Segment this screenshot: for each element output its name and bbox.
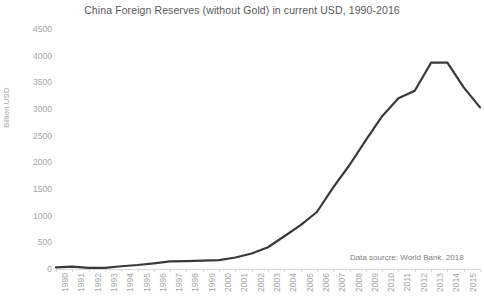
y-axis-tick-labels: 450040003500300025002000150010005000 [14, 29, 52, 269]
x-tick-mark [121, 269, 122, 272]
y-tick-label: 1500 [33, 184, 52, 194]
y-tick-label: 2000 [33, 157, 52, 167]
x-tick-mark [170, 269, 171, 272]
x-tick-label: 1998 [190, 273, 200, 292]
x-tick-mark [366, 269, 367, 272]
x-tick-mark [268, 269, 269, 272]
chart-title: China Foreign Reserves (without Gold) in… [0, 4, 484, 16]
x-tick-mark [464, 269, 465, 272]
x-tick-mark [398, 269, 399, 272]
x-tick-mark [89, 269, 90, 272]
y-axis-title: Billion USD [2, 88, 11, 128]
y-tick-label: 3500 [33, 77, 52, 87]
y-tick-label: 2500 [33, 131, 52, 141]
x-tick-mark [186, 269, 187, 272]
x-tick-label: 2010 [386, 273, 396, 292]
x-tick-label: 1991 [76, 273, 86, 292]
data-series-line [56, 29, 480, 269]
x-tick-mark [154, 269, 155, 272]
x-tick-mark [447, 269, 448, 272]
x-tick-label: 2015 [468, 273, 478, 292]
x-tick-label: 2005 [305, 273, 315, 292]
x-tick-mark [382, 269, 383, 272]
x-tick-mark [284, 269, 285, 272]
x-tick-mark [350, 269, 351, 272]
x-tick-label: 1992 [93, 273, 103, 292]
x-tick-label: 2003 [272, 273, 282, 292]
x-tick-mark [219, 269, 220, 272]
x-tick-label: 1995 [142, 273, 152, 292]
x-tick-mark [203, 269, 204, 272]
x-tick-mark [252, 269, 253, 272]
data-source-annotation: Data sourcre: World Bank, 2018 [350, 253, 464, 262]
y-tick-label: 3000 [33, 104, 52, 114]
x-tick-label: 1994 [125, 273, 135, 292]
x-tick-mark [301, 269, 302, 272]
x-tick-mark [72, 269, 73, 272]
x-tick-mark [333, 269, 334, 272]
x-tick-label: 1993 [109, 273, 119, 292]
y-tick-label: 0 [47, 264, 52, 274]
x-tick-label: 2007 [337, 273, 347, 292]
x-tick-label: 2000 [223, 273, 233, 292]
plot-area [56, 29, 480, 269]
x-tick-mark [480, 269, 481, 272]
x-tick-mark [105, 269, 106, 272]
chart-container: China Foreign Reserves (without Gold) in… [0, 0, 484, 308]
x-tick-label: 2008 [354, 273, 364, 292]
x-tick-label: 2002 [256, 273, 266, 292]
series-polyline [56, 63, 480, 268]
x-tick-mark [56, 269, 57, 272]
x-tick-label: 2012 [419, 273, 429, 292]
x-tick-label: 2001 [239, 273, 249, 292]
x-tick-mark [415, 269, 416, 272]
x-tick-label: 2004 [288, 273, 298, 292]
y-tick-label: 4500 [33, 24, 52, 34]
x-tick-mark [431, 269, 432, 272]
x-axis-tick-labels: 1990199119921993199419951996199719981999… [56, 273, 480, 307]
x-tick-label: 1990 [60, 273, 70, 292]
x-tick-mark [138, 269, 139, 272]
y-tick-label: 500 [38, 237, 52, 247]
x-tick-mark [235, 269, 236, 272]
y-tick-label: 4000 [33, 51, 52, 61]
x-tick-label: 1996 [158, 273, 168, 292]
x-tick-label: 2009 [370, 273, 380, 292]
x-tick-mark [317, 269, 318, 272]
x-tick-label: 2011 [402, 273, 412, 291]
x-tick-label: 2006 [321, 273, 331, 292]
x-tick-label: 2013 [435, 273, 445, 292]
x-tick-label: 1997 [174, 273, 184, 292]
x-tick-label: 1999 [207, 273, 217, 292]
y-tick-label: 1000 [33, 211, 52, 221]
x-tick-label: 2014 [451, 273, 461, 292]
